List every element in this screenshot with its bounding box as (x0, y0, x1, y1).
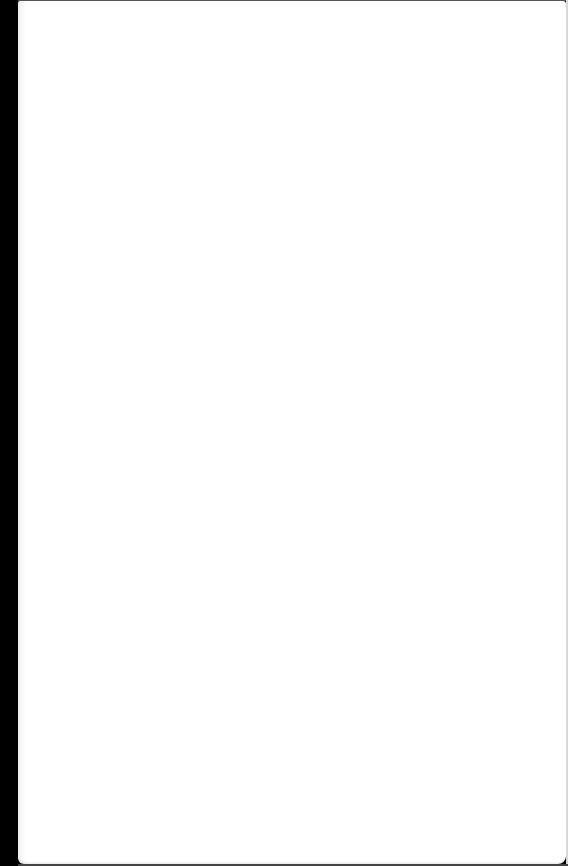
blank-page (18, 1, 566, 864)
